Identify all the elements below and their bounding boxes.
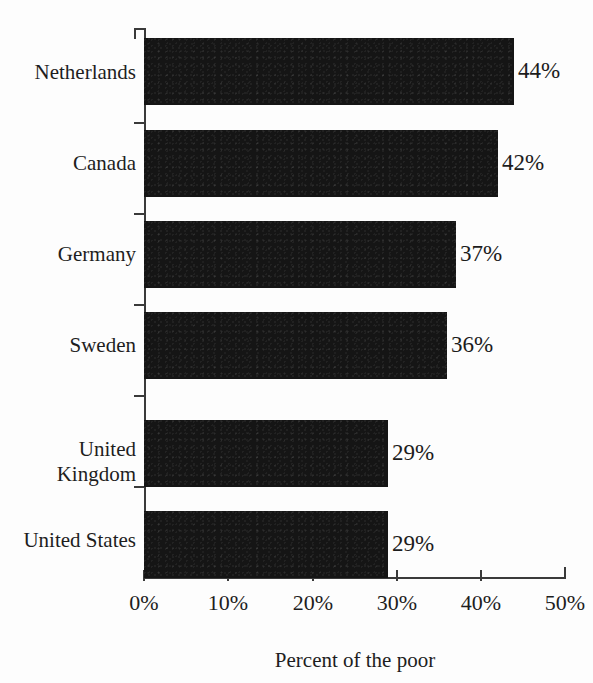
bar-value-germany: 37% [456,241,502,267]
x-tick-label-0: 0% [109,590,179,616]
bar-sweden [144,312,447,379]
y-axis-tick-3 [134,304,145,306]
bar-row-germany: 37% [0,221,593,288]
y-axis-tick-2 [134,213,145,215]
bar-row-netherlands: 44% [0,38,593,105]
x-tick-label-40: 40% [446,590,516,616]
bar-row-united-kingdom: 29% [0,420,593,487]
y-axis-top-cap-bar [134,28,145,30]
bar-value-netherlands: 44% [514,58,560,84]
x-tick-label-20: 20% [278,590,348,616]
bar-canada [144,130,498,197]
y-axis-tick-1 [134,122,145,124]
bar-value-sweden: 36% [447,332,493,358]
bar-united-kingdom [144,420,388,487]
bar-united-states [144,511,388,578]
bar-value-united-kingdom: 29% [388,440,434,466]
bar-chart: Netherlands Canada Germany Sweden United… [0,0,593,683]
bar-row-canada: 42% [0,130,593,197]
bar-value-canada: 42% [498,150,544,176]
x-axis-title: Percent of the poor [144,648,566,673]
x-tick-label-50: 50% [530,590,593,616]
y-axis-tick-4 [134,395,145,397]
x-tick-label-10: 10% [193,590,263,616]
bar-row-united-states: 29% [0,511,593,578]
x-tick-label-30: 30% [362,590,432,616]
bar-value-united-states: 29% [388,531,434,557]
bar-germany [144,221,456,288]
bar-row-sweden: 36% [0,312,593,379]
bar-netherlands [144,38,514,105]
